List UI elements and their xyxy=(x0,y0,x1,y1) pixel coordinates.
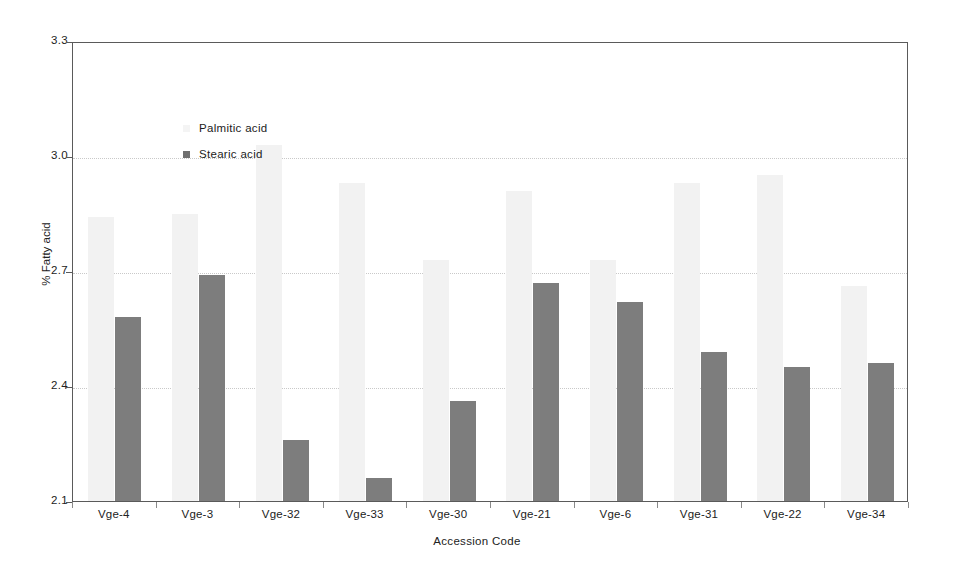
bar-palmitic-acid-vge-6 xyxy=(590,260,616,502)
legend-item-palmitic: Palmitic acid xyxy=(183,115,267,141)
x-tick-label-vge-3: Vge-3 xyxy=(155,508,239,520)
bar-stearic-acid-vge-3 xyxy=(199,275,225,501)
y-axis-label: % Fatty acid xyxy=(40,194,52,314)
y-tick-label: 2.7 xyxy=(22,264,68,276)
bar-stearic-acid-vge-32 xyxy=(283,440,309,501)
legend-label-stearic: Stearic acid xyxy=(199,148,263,160)
x-tick-label-vge-21: Vge-21 xyxy=(490,508,574,520)
bar-stearic-acid-vge-22 xyxy=(784,367,810,501)
chart-legend: Palmitic acid Stearic acid xyxy=(183,115,267,167)
bar-palmitic-acid-vge-34 xyxy=(841,286,867,501)
x-axis-label: Accession Code xyxy=(0,535,954,547)
bar-stearic-acid-vge-33 xyxy=(366,478,392,501)
x-tick-label-vge-6: Vge-6 xyxy=(573,508,657,520)
bar-palmitic-acid-vge-32 xyxy=(256,145,282,502)
x-tick-mark xyxy=(72,502,73,508)
bar-stearic-acid-vge-34 xyxy=(868,363,894,501)
x-tick-label-vge-34: Vge-34 xyxy=(824,508,908,520)
plot-area: Palmitic acid Stearic acid xyxy=(72,42,908,502)
bar-palmitic-acid-vge-3 xyxy=(172,214,198,502)
legend-item-stearic: Stearic acid xyxy=(183,141,267,167)
y-tick-label: 2.4 xyxy=(22,379,68,391)
bar-palmitic-acid-vge-4 xyxy=(88,217,114,501)
legend-swatch-palmitic-icon xyxy=(183,125,190,132)
bar-stearic-acid-vge-31 xyxy=(701,352,727,502)
bar-stearic-acid-vge-6 xyxy=(617,302,643,501)
x-tick-label-vge-22: Vge-22 xyxy=(741,508,825,520)
y-tick-label: 3.3 xyxy=(22,34,68,46)
legend-label-palmitic: Palmitic acid xyxy=(199,122,267,134)
x-tick-label-vge-33: Vge-33 xyxy=(323,508,407,520)
bar-palmitic-acid-vge-21 xyxy=(506,191,532,502)
bar-palmitic-acid-vge-33 xyxy=(339,183,365,501)
fatty-acid-bar-chart: % Fatty acid 2.12.42.73.03.3 Palmitic ac… xyxy=(0,0,954,565)
legend-swatch-stearic-icon xyxy=(183,151,190,158)
bar-palmitic-acid-vge-31 xyxy=(674,183,700,501)
x-tick-label-vge-32: Vge-32 xyxy=(239,508,323,520)
bar-stearic-acid-vge-30 xyxy=(450,401,476,501)
bar-stearic-acid-vge-21 xyxy=(533,283,559,502)
bar-palmitic-acid-vge-22 xyxy=(757,175,783,501)
x-tick-label-vge-30: Vge-30 xyxy=(406,508,490,520)
y-tick-label: 2.1 xyxy=(22,494,68,506)
bar-palmitic-acid-vge-30 xyxy=(423,260,449,502)
x-tick-label-vge-4: Vge-4 xyxy=(72,508,156,520)
bar-stearic-acid-vge-4 xyxy=(115,317,141,501)
y-tick-label: 3.0 xyxy=(22,149,68,161)
x-tick-label-vge-31: Vge-31 xyxy=(657,508,741,520)
